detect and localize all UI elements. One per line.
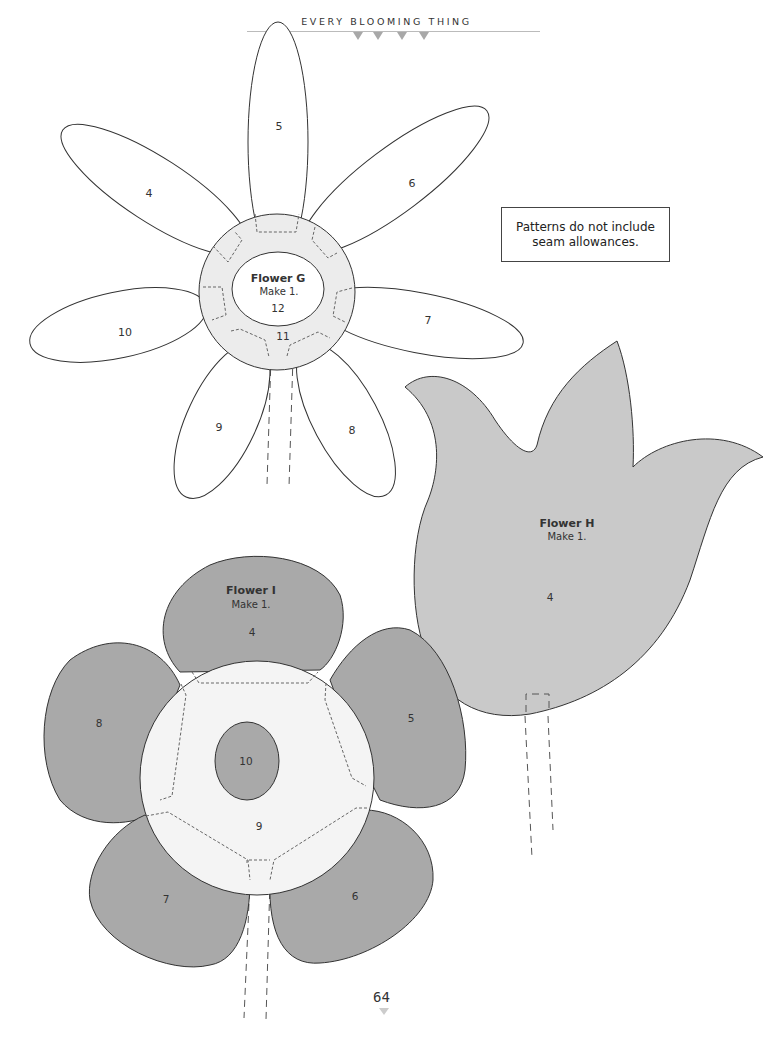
flower-g-instruction: Make 1. (259, 286, 298, 297)
note-line-1: Patterns do not include (516, 220, 655, 235)
piece-label: 8 (96, 717, 103, 729)
piece-label: 9 (256, 820, 263, 832)
piece-label: 11 (276, 330, 289, 342)
piece-label: 6 (352, 890, 359, 902)
piece-label: 5 (276, 120, 283, 133)
flower-h-instruction: Make 1. (547, 531, 586, 542)
flower-i-petal-4 (163, 556, 343, 672)
pattern-artwork: 5 4 6 7 8 9 10 Flower G Make 1. 12 11 Fl… (0, 0, 773, 1046)
flower-i-title: Flower I (226, 584, 276, 597)
flower-g-stem-guide (267, 357, 293, 487)
piece-label: 4 (547, 591, 554, 603)
piece-label: 10 (118, 326, 132, 339)
seam-allowance-note: Patterns do not include seam allowances. (501, 207, 670, 262)
piece-label: 4 (146, 187, 153, 200)
piece-label: 4 (249, 626, 256, 638)
piece-label: 9 (216, 421, 223, 434)
triangle-decor-icon (379, 1008, 389, 1015)
piece-label: 10 (239, 755, 252, 767)
flower-i-instruction: Make 1. (231, 599, 270, 610)
note-line-2: seam allowances. (532, 235, 639, 250)
piece-label: 7 (163, 893, 170, 905)
flower-g-title: Flower G (251, 272, 306, 285)
page-number: 64 (373, 989, 390, 1005)
flower-g-petal-10 (23, 274, 213, 376)
piece-label: 6 (409, 177, 416, 190)
piece-label: 8 (349, 424, 356, 437)
flower-h-title: Flower H (540, 517, 595, 530)
piece-label: 12 (271, 302, 284, 314)
piece-label: 7 (425, 314, 432, 327)
piece-label: 5 (408, 712, 415, 724)
